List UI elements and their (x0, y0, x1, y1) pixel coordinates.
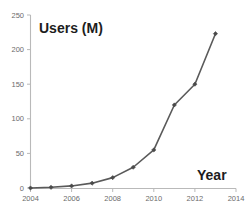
data-point (213, 32, 217, 36)
data-point (90, 181, 94, 185)
y-axis: 0 50 100 150 200 250 (11, 11, 30, 193)
y-axis-title: Users (M) (39, 20, 103, 36)
x-axis-title: Year (197, 167, 227, 183)
x-tick-label-2006: 2006 (63, 194, 80, 203)
x-tick-label-2004: 2004 (22, 194, 39, 203)
x-axis: 2004 2006 2008 2010 2012 2014 (22, 189, 244, 204)
x-tick-label-2010: 2010 (145, 194, 162, 203)
y-tick-label-150: 150 (11, 80, 24, 89)
y-tick-label-200: 200 (11, 45, 24, 54)
y-tick-label-250: 250 (11, 11, 24, 20)
x-tick-label-2012: 2012 (187, 194, 204, 203)
x-tick-label-2014: 2014 (228, 194, 245, 203)
series-line-users (31, 34, 216, 188)
series-markers (28, 32, 217, 191)
line-chart: 0 50 100 150 200 250 2004 2006 2008 2010… (0, 0, 250, 219)
y-tick-label-0: 0 (20, 184, 24, 193)
chart-container: 0 50 100 150 200 250 2004 2006 2008 2010… (0, 0, 250, 219)
x-tick-label-2008: 2008 (104, 194, 121, 203)
data-point (70, 184, 74, 188)
data-point (28, 186, 32, 190)
y-tick-label-100: 100 (11, 114, 24, 123)
y-tick-label-50: 50 (16, 149, 24, 158)
